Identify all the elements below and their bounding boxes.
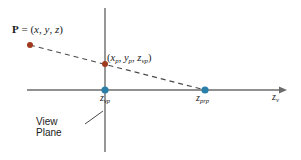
z-vp-subscript: vp bbox=[104, 97, 110, 104]
label-projected-point: (xp, yp, zvp) bbox=[107, 52, 151, 64]
label-point-p: P = (x, y, z) bbox=[12, 24, 63, 36]
projection-diagram: P = (x, y, z) (xp, yp, zvp) zvp zprp zv … bbox=[0, 0, 301, 160]
label-z-vp: zvp bbox=[100, 93, 110, 105]
z-axis-subscript: v bbox=[276, 96, 279, 103]
view-plane-leader-line bbox=[85, 111, 103, 124]
label-z-axis: zv bbox=[272, 92, 279, 104]
z-prp-subscript: prp bbox=[200, 97, 209, 104]
view-plane-line2: Plane bbox=[36, 128, 62, 139]
point-p-symbol: P bbox=[12, 23, 19, 35]
projected-close-paren: ) bbox=[148, 52, 152, 63]
z-axis-arrowhead bbox=[279, 87, 287, 94]
point-p-dot bbox=[27, 42, 33, 48]
label-z-prp: zprp bbox=[196, 93, 209, 105]
point-p-close: ) bbox=[59, 23, 63, 35]
view-plane-line1: View bbox=[36, 117, 62, 128]
label-view-plane: View Plane bbox=[36, 117, 62, 138]
point-p-equals: = ( bbox=[19, 23, 34, 35]
